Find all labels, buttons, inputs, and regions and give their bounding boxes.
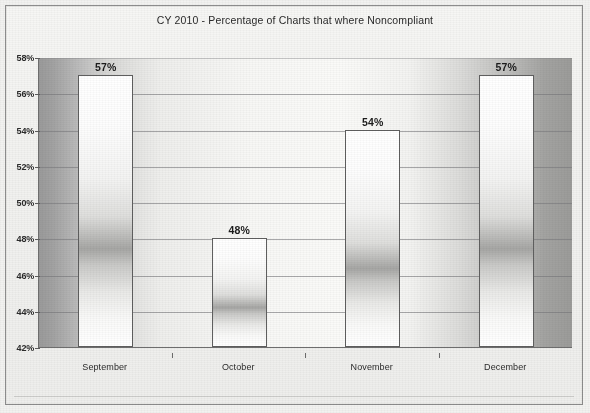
y-axis-tick-mark [35, 276, 40, 277]
x-axis-category-label: November [351, 362, 393, 372]
chart-title: CY 2010 - Percentage of Charts that wher… [6, 14, 584, 26]
y-axis-tick-label: 46% [17, 271, 34, 281]
y-axis-tick-label: 50% [17, 198, 34, 208]
y-axis-tick-mark [35, 58, 40, 59]
bar[interactable]: 54% [345, 130, 400, 348]
y-axis-tick-mark [35, 94, 40, 95]
x-axis-category-label: September [82, 362, 127, 372]
bar-value-label: 57% [95, 61, 117, 73]
y-axis-tick-mark [35, 131, 40, 132]
bar-value-label: 48% [228, 224, 250, 236]
y-axis-tick-mark [35, 312, 40, 313]
x-axis-category-label: December [484, 362, 526, 372]
chart-screenshot: CY 2010 - Percentage of Charts that wher… [0, 0, 590, 413]
bar-value-label: 54% [362, 116, 384, 128]
plot-area: 57%48%54%57% 42%44%46%48%50%52%54%56%58% [38, 58, 572, 348]
y-axis-tick-label: 48% [17, 234, 34, 244]
bar-value-label: 57% [495, 61, 517, 73]
x-axis-tick-mark [172, 353, 173, 358]
y-axis-tick-mark [35, 348, 40, 349]
x-axis-tick-mark [305, 353, 306, 358]
bar[interactable]: 48% [212, 238, 267, 347]
frame-baseline-rule [14, 396, 574, 397]
y-axis-tick-mark [35, 167, 40, 168]
y-axis-tick-label: 54% [17, 126, 34, 136]
y-axis-tick-mark [35, 239, 40, 240]
chart-frame: CY 2010 - Percentage of Charts that wher… [5, 5, 583, 405]
y-axis-tick-label: 44% [17, 307, 34, 317]
y-axis-tick-label: 56% [17, 89, 34, 99]
y-axis-tick-label: 52% [17, 162, 34, 172]
x-axis-labels: SeptemberOctoberNovemberDecember [38, 353, 572, 383]
y-axis-tick-mark [35, 203, 40, 204]
bars-layer: 57%48%54%57% [39, 58, 572, 347]
y-axis-tick-label: 58% [17, 53, 34, 63]
bar[interactable]: 57% [78, 75, 133, 347]
x-axis-category-label: October [222, 362, 255, 372]
x-axis-tick-mark [439, 353, 440, 358]
y-axis-tick-label: 42% [17, 343, 34, 353]
bar[interactable]: 57% [479, 75, 534, 347]
